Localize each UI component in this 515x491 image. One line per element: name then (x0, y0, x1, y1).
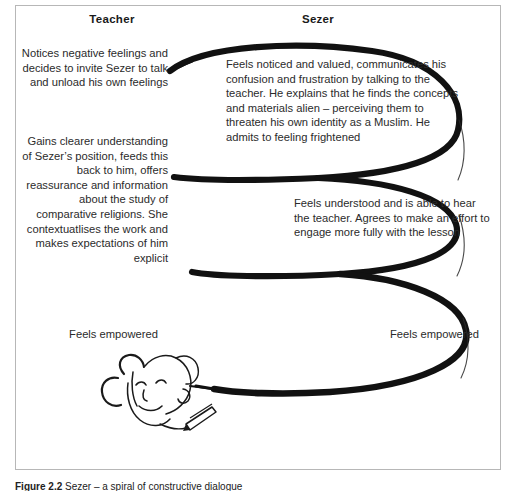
teacher-step-1-text: Notices negative feelings and decides to… (18, 46, 168, 90)
figure-caption: Figure 2.2 Sezer – a spiral of construct… (15, 481, 485, 491)
figure-caption-label: Figure 2.2 (15, 481, 62, 491)
sezer-step-2-text: Feels understood and is able to hear the… (294, 196, 494, 240)
figure-page: Teacher Sezer (0, 0, 515, 491)
teacher-step-2-text: Gains clearer understanding of Sezer’s p… (18, 134, 168, 265)
sezer-step-3-text: Feels empowered (390, 327, 490, 342)
figure-caption-text: Sezer – a spiral of constructive dialogu… (65, 481, 242, 491)
sezer-step-1-text: Feels noticed and valued, communicates h… (226, 57, 458, 145)
teacher-step-3-text: Feels empowered (18, 327, 158, 342)
column-header-teacher: Teacher (62, 13, 162, 25)
column-header-sezer: Sezer (268, 13, 368, 25)
